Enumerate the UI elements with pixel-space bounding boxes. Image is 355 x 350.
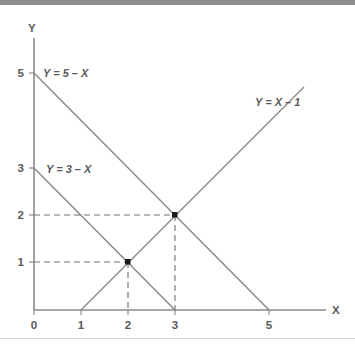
line-y-equals-5-minus-x [34,73,269,310]
chart-canvas: Y X 0 1 2 3 5 1 2 3 5 [0,5,355,338]
data-lines [34,73,304,310]
equation-label-y-5-minus-x: Y = 5 – X [43,67,89,79]
y-tick-label-5: 5 [18,67,25,79]
equation-label-y-3-minus-x: Y = 3 – X [46,163,92,175]
equation-label-y-x-minus-1: Y = X – 1 [255,96,300,108]
x-tick-label-2: 2 [125,319,131,331]
marker-point-2-1 [125,259,131,265]
marker-point-3-2 [172,212,178,218]
y-tick-label-1: 1 [18,256,25,268]
guide-lines [34,215,175,310]
line-y-equals-x-minus-1 [81,87,304,310]
bottom-rule-divider [0,338,355,339]
x-axis-label: X [332,304,340,316]
intersection-markers [125,212,178,265]
line-y-equals-3-minus-x [34,168,175,310]
y-axis-label: Y [28,22,36,34]
x-tick-label-0: 0 [31,319,37,331]
y-axis-ticks: 1 2 3 5 [18,67,34,268]
y-tick-label-2: 2 [18,209,24,221]
x-tick-label-3: 3 [172,319,178,331]
x-axis-ticks: 0 1 2 3 5 [31,310,273,331]
x-tick-label-1: 1 [78,319,85,331]
y-tick-label-3: 3 [18,162,24,174]
x-tick-label-5: 5 [266,319,273,331]
figure-root: Y X 0 1 2 3 5 1 2 3 5 [0,0,355,350]
